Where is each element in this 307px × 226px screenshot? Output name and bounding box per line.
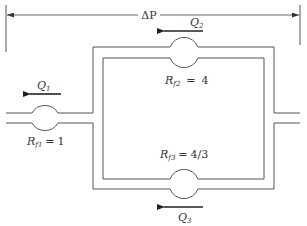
resistance-label-rf3: Rf3=4/3 — [159, 148, 208, 162]
pipe-network-diagram: ΔP Q1 Rf1=1 Q2 Rf2=4 Rf3=4/3 Q3 — [0, 0, 307, 226]
flow-q3: Q3 — [164, 207, 203, 225]
inlet-pipe — [6, 37, 300, 198]
resistance-label-rf1: Rf1=1 — [26, 135, 65, 149]
flow-q2: Q2 — [164, 16, 204, 31]
pressure-drop-dimension: ΔP — [6, 5, 300, 52]
flow-label-q1: Q1 — [37, 79, 51, 93]
outer-top-pipe-wall — [6, 37, 300, 113]
flow-label-q2: Q2 — [190, 16, 204, 30]
flow-q1: Q1 — [30, 79, 61, 94]
flow-label-q3: Q3 — [178, 211, 192, 225]
resistance-label-rf2: Rf2=4 — [164, 74, 209, 88]
pressure-drop-label: ΔP — [141, 9, 157, 22]
